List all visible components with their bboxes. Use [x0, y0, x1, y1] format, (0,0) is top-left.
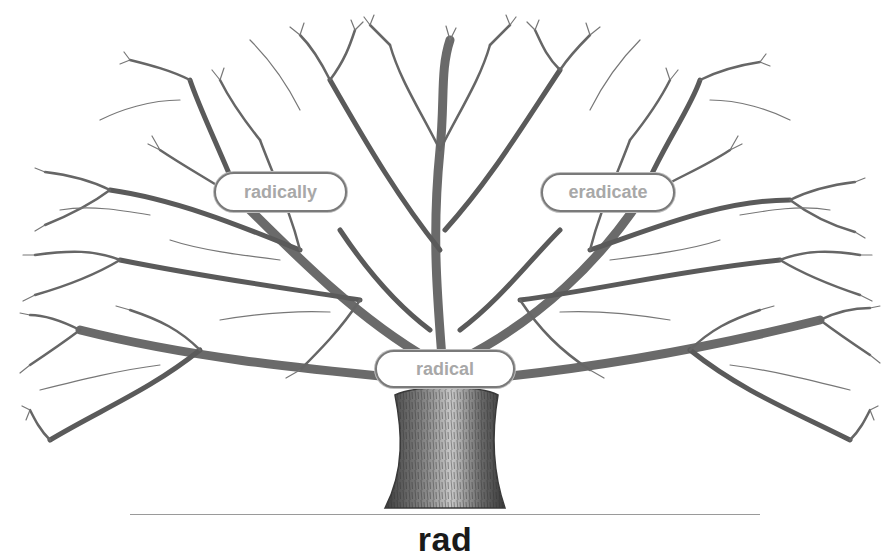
word-tree-diagram: radically eradicate radical rad [0, 0, 890, 554]
word-node-label: eradicate [568, 182, 647, 203]
root-word: rad [0, 520, 890, 554]
word-node-eradicate: eradicate [541, 173, 675, 212]
tree-illustration [0, 0, 890, 554]
word-node-label: radical [416, 359, 474, 380]
word-node-radically: radically [214, 172, 347, 212]
word-node-radical: radical [375, 350, 515, 388]
word-node-label: radically [244, 182, 317, 203]
ground-line [130, 514, 760, 515]
